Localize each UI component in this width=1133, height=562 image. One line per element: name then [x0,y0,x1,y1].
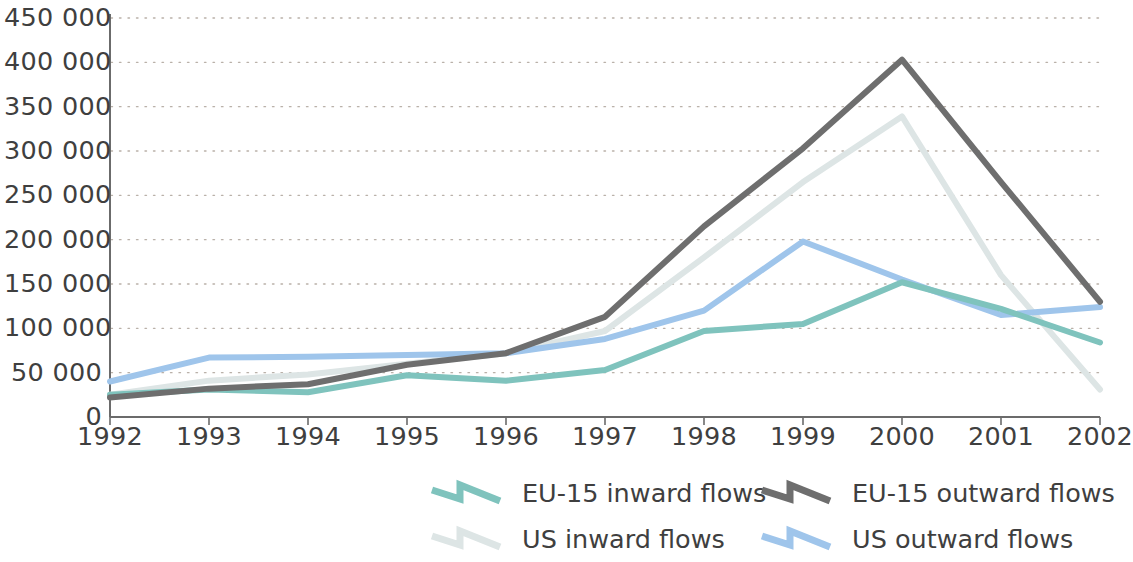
x-axis-tick-label: 2001 [968,424,1034,450]
y-axis-tick-labels: 450 000400 000350 000300 000250 000200 0… [0,0,102,470]
legend-item-eu15-inward: EU-15 inward flows [430,472,760,516]
legend-item-us-inward: US inward flows [430,518,760,562]
legend-swatch-icon [430,523,502,557]
chart-legend: EU-15 inward flows EU-15 outward flows U… [430,472,1112,562]
y-axis-tick-label: 200 000 [4,227,102,253]
x-axis-tick-label: 1992 [77,424,143,450]
legend-label: EU-15 inward flows [522,481,766,507]
legend-label: EU-15 outward flows [852,481,1115,507]
x-axis-tick-label: 1998 [671,424,737,450]
legend-label: US inward flows [522,527,725,553]
y-axis-tick-label: 250 000 [4,182,102,208]
x-axis-tick-label: 1994 [275,424,341,450]
x-axis-tick-label: 1995 [374,424,440,450]
series-lines [110,60,1100,398]
y-axis-tick-label: 50 000 [4,360,102,386]
legend-swatch-icon [430,477,502,511]
plot-area [0,0,1112,470]
y-axis-tick-label: 400 000 [4,49,102,75]
x-axis-tick-label: 1993 [176,424,242,450]
x-axis-tick-label: 2002 [1067,424,1133,450]
plot-svg [0,0,1112,470]
legend-swatch-icon [760,477,832,511]
y-axis-tick-label: 350 000 [4,94,102,120]
series-line-us-outward-flows [110,241,1100,381]
series-line-eu-15-outward-flows [110,60,1100,398]
y-axis-tick-label: 450 000 [4,5,102,31]
x-axis-tick-label: 1996 [473,424,539,450]
legend-item-eu15-outward: EU-15 outward flows [760,472,1112,516]
legend-label: US outward flows [852,527,1073,553]
x-axis-tick-label: 1999 [770,424,836,450]
x-axis-tick-labels: 1992199319941995199619971998199920002001… [0,424,1112,464]
legend-swatch-icon [760,523,832,557]
x-axis-tick-label: 1997 [572,424,638,450]
legend-item-us-outward: US outward flows [760,518,1112,562]
x-axis-tick-label: 2000 [869,424,935,450]
series-line-us-inward-flows [110,116,1100,394]
y-axis-tick-label: 300 000 [4,138,102,164]
y-axis-tick-label: 100 000 [4,315,102,341]
y-axis-tick-label: 150 000 [4,271,102,297]
